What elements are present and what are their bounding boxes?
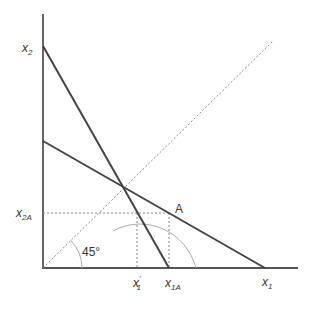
y-axis-label: x2 bbox=[21, 41, 33, 57]
diagonal-45-line bbox=[43, 41, 273, 268]
angle-arc-45 bbox=[71, 240, 82, 268]
point-A-label: A bbox=[175, 202, 183, 216]
angle-label: 45° bbox=[82, 245, 100, 259]
budget-diagram: x2 x2A 45° A x′1 x1A x1 bbox=[0, 0, 312, 311]
x1A-label: x1A bbox=[164, 276, 181, 292]
x2A-label: x2A bbox=[15, 206, 32, 222]
steep-budget-line bbox=[43, 46, 169, 268]
x1-prime-label: x′1 bbox=[132, 274, 141, 292]
rotation-arc bbox=[113, 224, 196, 268]
x-axis-label: x1 bbox=[261, 275, 272, 291]
flat-budget-line bbox=[43, 141, 265, 268]
